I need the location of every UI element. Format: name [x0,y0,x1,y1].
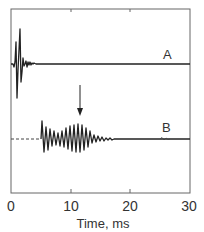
x-tick-label-10: 10 [63,198,79,214]
trace-b-label: B [162,120,171,135]
trace-a [11,29,190,98]
arrow-annotation [77,85,83,116]
chart: A B 0 10 20 30 Time, ms [0,0,204,232]
x-axis-title: Time, ms [77,216,130,231]
arrow-down-icon [77,108,83,116]
trace-a-label: A [163,47,172,62]
x-tick-label-30: 30 [181,198,197,214]
plot-frame [11,9,190,193]
x-tick-label-0: 0 [7,198,15,214]
x-tick-label-20: 20 [122,198,138,214]
